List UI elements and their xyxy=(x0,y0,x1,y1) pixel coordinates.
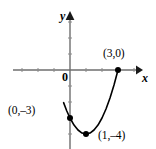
x-axis-label: x xyxy=(142,72,148,84)
y-axis-label: y xyxy=(60,10,65,22)
graph-figure: y x 0 (3,0) (0,–3) (1,–4) xyxy=(0,0,156,149)
point-label-y-intercept: (0,–3) xyxy=(8,105,35,117)
coordinate-plot-svg xyxy=(0,0,156,149)
origin-label: 0 xyxy=(62,71,68,83)
point-dot-y-intercept xyxy=(67,115,73,121)
point-dot-vertex xyxy=(83,131,89,137)
point-dot-x-intercept xyxy=(115,67,121,73)
point-label-vertex: (1,–4) xyxy=(98,130,125,142)
y-axis-arrowhead xyxy=(66,11,75,20)
point-label-x-intercept: (3,0) xyxy=(103,48,125,60)
